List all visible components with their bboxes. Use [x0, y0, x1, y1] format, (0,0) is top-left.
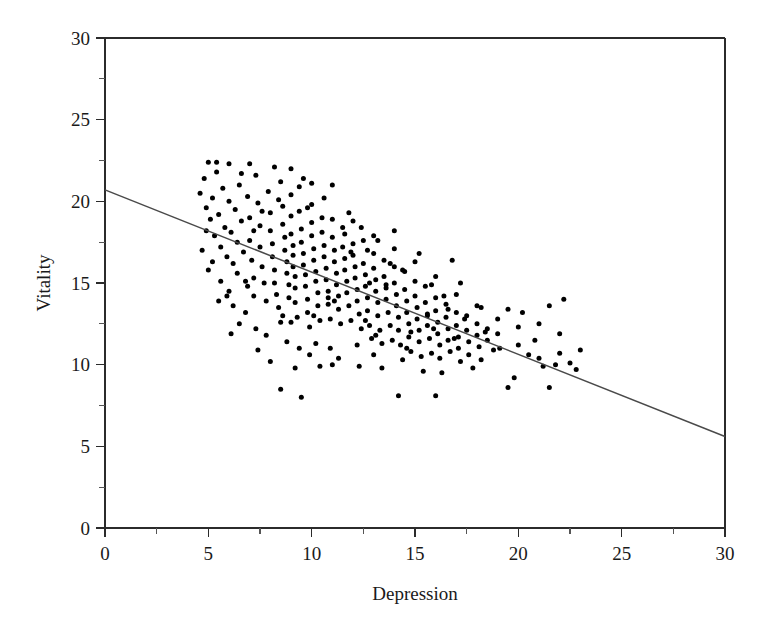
data-point: [429, 351, 434, 356]
data-point: [313, 341, 318, 346]
data-point: [394, 292, 399, 297]
data-point: [278, 320, 283, 325]
data-point: [344, 279, 349, 284]
data-point: [361, 238, 366, 243]
data-point: [299, 240, 304, 245]
data-point: [348, 318, 353, 323]
data-point: [537, 356, 542, 361]
data-point: [392, 228, 397, 233]
data-point: [470, 365, 475, 370]
data-point: [268, 359, 273, 364]
data-point: [342, 256, 347, 261]
data-point: [415, 305, 420, 310]
data-point: [373, 277, 378, 282]
data-point: [262, 281, 267, 286]
data-point: [506, 307, 511, 312]
data-point: [396, 315, 401, 320]
data-point: [371, 251, 376, 256]
data-point: [495, 331, 500, 336]
data-point: [278, 387, 283, 392]
data-point: [466, 352, 471, 357]
data-point: [214, 169, 219, 174]
data-point: [315, 303, 320, 308]
data-point: [340, 245, 345, 250]
data-point: [282, 235, 287, 240]
data-point: [237, 321, 242, 326]
data-point: [408, 349, 413, 354]
data-point: [413, 259, 418, 264]
data-point: [547, 303, 552, 308]
data-point: [446, 307, 451, 312]
data-point: [198, 191, 203, 196]
data-point: [365, 248, 370, 253]
data-point: [332, 259, 337, 264]
data-point: [336, 294, 341, 299]
data-point: [557, 331, 562, 336]
data-point: [247, 161, 252, 166]
data-point: [284, 271, 289, 276]
data-point: [328, 346, 333, 351]
y-axis-tick-labels: 051015202530: [71, 28, 90, 539]
data-point: [456, 346, 461, 351]
data-point: [382, 258, 387, 263]
data-point: [330, 235, 335, 240]
data-point: [307, 325, 312, 330]
data-point: [208, 217, 213, 222]
data-point: [200, 248, 205, 253]
data-point: [479, 305, 484, 310]
data-point: [433, 295, 438, 300]
data-point: [433, 308, 438, 313]
data-point: [322, 243, 327, 248]
data-point: [444, 302, 449, 307]
x-tick-label: 5: [204, 543, 214, 564]
data-point: [317, 364, 322, 369]
plot-canvas: 051015202530 051015202530 Depression Vit…: [0, 0, 770, 634]
scatter-plot-figure: 051015202530 051015202530 Depression Vit…: [0, 0, 770, 634]
data-point: [367, 281, 372, 286]
data-point: [537, 321, 542, 326]
data-point: [363, 318, 368, 323]
data-point: [311, 313, 316, 318]
data-point: [435, 331, 440, 336]
data-point: [402, 287, 407, 292]
data-point: [272, 281, 277, 286]
data-point: [258, 245, 263, 250]
x-tick-label: 25: [612, 543, 631, 564]
data-point: [247, 215, 252, 220]
data-point: [218, 279, 223, 284]
data-point: [392, 246, 397, 251]
data-point: [369, 336, 374, 341]
data-point: [475, 321, 480, 326]
data-point: [390, 338, 395, 343]
data-point: [346, 210, 351, 215]
data-point: [377, 328, 382, 333]
data-point: [373, 333, 378, 338]
data-point: [289, 320, 294, 325]
data-point: [247, 238, 252, 243]
y-axis-ticks: [96, 38, 105, 528]
data-point: [512, 375, 517, 380]
data-point: [433, 274, 438, 279]
regression-trendline: [105, 190, 725, 437]
data-point: [202, 176, 207, 181]
data-point: [305, 310, 310, 315]
data-point: [328, 316, 333, 321]
data-point: [419, 354, 424, 359]
data-point: [431, 326, 436, 331]
y-axis-title: Vitality: [33, 254, 54, 311]
data-point: [303, 284, 308, 289]
data-point: [375, 300, 380, 305]
data-point: [253, 173, 258, 178]
data-point: [218, 245, 223, 250]
data-point: [297, 346, 302, 351]
data-point: [578, 347, 583, 352]
data-point: [396, 393, 401, 398]
data-point: [266, 189, 271, 194]
data-point: [365, 308, 370, 313]
data-point: [291, 243, 296, 248]
data-point: [437, 343, 442, 348]
data-point: [396, 328, 401, 333]
data-point: [338, 321, 343, 326]
data-point: [255, 347, 260, 352]
x-axis-tick-labels: 051015202530: [100, 543, 734, 564]
